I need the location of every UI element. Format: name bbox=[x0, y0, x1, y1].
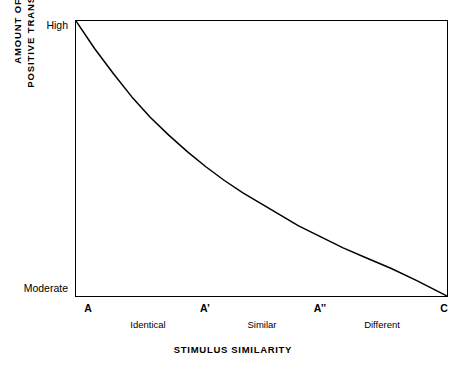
plot-area bbox=[75, 20, 448, 297]
x-axis-category-similar: Similar bbox=[247, 319, 276, 330]
x-axis-tick-label-a: A bbox=[84, 302, 92, 314]
x-axis-title: STIMULUS SIMILARITY bbox=[0, 344, 466, 355]
y-axis-title-line-2: POSITIVE TRANSFER bbox=[24, 0, 37, 96]
y-axis-title: AMOUNT OF POSITIVE TRANSFER bbox=[11, 0, 37, 96]
x-axis-tick-label-a-prime: A’ bbox=[200, 302, 210, 314]
transfer-similarity-chart: High Moderate AMOUNT OF POSITIVE TRANSFE… bbox=[0, 0, 466, 365]
x-axis-tick-label-a-double-prime: A’’ bbox=[314, 302, 326, 314]
y-axis-title-line-1: AMOUNT OF bbox=[11, 0, 24, 96]
y-axis-tick-label-moderate: Moderate bbox=[0, 282, 68, 294]
x-axis-category-identical: Identical bbox=[130, 319, 165, 330]
x-axis-tick-label-c: C bbox=[440, 302, 448, 314]
transfer-decay-curve bbox=[76, 21, 447, 296]
x-axis-category-different: Different bbox=[364, 319, 400, 330]
